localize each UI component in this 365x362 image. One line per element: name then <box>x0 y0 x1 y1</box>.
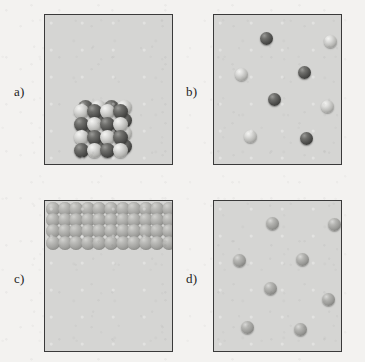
particle-d-5 <box>322 293 335 306</box>
panel-content-b <box>214 15 341 164</box>
panel-content-d <box>214 201 341 351</box>
particle-b-2 <box>235 68 248 81</box>
panel-box-c <box>44 200 173 352</box>
panel-box-a <box>44 14 173 165</box>
particle-d-2 <box>233 254 246 267</box>
particle-d-6 <box>241 321 254 334</box>
panel-label-d: d) <box>186 271 197 287</box>
particle-d-4 <box>264 282 277 295</box>
particle-b-5 <box>321 100 334 113</box>
particle-b-7 <box>300 132 313 145</box>
panel-box-b <box>213 14 342 165</box>
particle-d-7 <box>294 323 307 336</box>
panel-label-b: b) <box>186 84 197 100</box>
lattice-sphere-a-1-3-3 <box>113 143 128 158</box>
panel-label-c: c) <box>14 271 25 287</box>
particle-d-1 <box>328 218 341 231</box>
packed-sphere-c-3-10 <box>162 236 173 250</box>
panel-content-a <box>45 15 172 164</box>
figure-canvas: a)b)c)d) <box>0 0 365 362</box>
particle-b-0 <box>260 32 273 45</box>
particle-b-3 <box>298 66 311 79</box>
particle-d-0 <box>266 217 279 230</box>
particle-b-1 <box>324 35 337 48</box>
panel-box-d <box>213 200 342 352</box>
panel-content-c <box>45 201 172 351</box>
particle-b-6 <box>244 130 257 143</box>
panel-label-a: a) <box>14 84 25 100</box>
particle-b-4 <box>268 93 281 106</box>
particle-d-3 <box>296 253 309 266</box>
